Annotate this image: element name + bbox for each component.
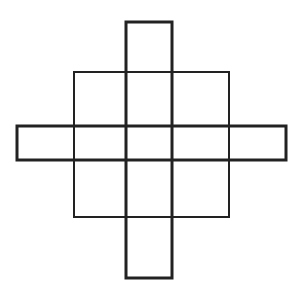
square xyxy=(74,72,229,217)
overlapping-rectangles-diagram xyxy=(0,0,302,290)
vertical-bar xyxy=(126,22,172,278)
horizontal-bar xyxy=(17,126,286,160)
